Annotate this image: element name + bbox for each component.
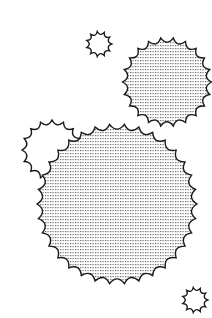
dot-pattern-fill xyxy=(123,38,212,126)
shape-layer xyxy=(22,32,212,313)
small-star-top xyxy=(87,32,112,57)
medium-scalloped-circle xyxy=(123,38,212,126)
small-star-bottom xyxy=(183,288,208,313)
scalloped-shapes-canvas xyxy=(0,0,212,318)
